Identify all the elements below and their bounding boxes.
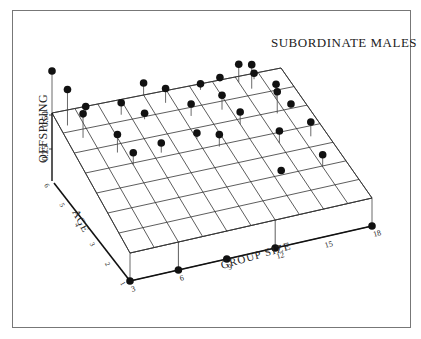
x-tick-label: 15 — [324, 239, 334, 250]
data-point — [250, 69, 258, 77]
x-tick-label: 18 — [372, 228, 382, 239]
y-tick-label: 3 — [88, 241, 97, 248]
data-point — [319, 151, 327, 159]
data-point — [141, 109, 149, 117]
data-point — [162, 85, 170, 93]
y-tick-label: 5 — [57, 202, 66, 209]
data-point — [187, 100, 195, 108]
y-axis-label: AGE — [70, 207, 92, 234]
data-point — [79, 110, 87, 118]
z-axis-label: OFFSPRING — [36, 94, 50, 163]
data-point — [287, 100, 295, 108]
data-point — [277, 167, 285, 175]
data-point — [157, 139, 165, 147]
data-point — [272, 81, 280, 89]
data-point — [216, 131, 224, 139]
data-point — [48, 67, 56, 75]
data-point — [117, 99, 125, 107]
data-point — [248, 61, 256, 69]
data-point — [235, 60, 243, 68]
data-point — [64, 86, 72, 94]
data-point — [236, 108, 244, 116]
data-point — [140, 79, 148, 87]
data-point — [273, 88, 281, 96]
data-point — [82, 103, 90, 111]
3d-scatter-plot: 3691215181234560.250.50 OFFSPRING AGE GR… — [0, 0, 421, 339]
data-point — [197, 80, 205, 88]
data-point — [216, 74, 224, 82]
data-point — [218, 91, 226, 99]
y-tick-label: 1 — [118, 280, 127, 287]
y-tick-label: 6 — [42, 182, 51, 189]
x-tick-label: 3 — [130, 284, 136, 294]
data-point — [193, 129, 201, 137]
data-point — [114, 131, 122, 139]
data-point — [276, 127, 284, 135]
x-tick-label: 6 — [178, 273, 184, 283]
y-tick-label: 2 — [103, 261, 112, 268]
data-point — [129, 149, 137, 157]
data-point — [307, 118, 315, 126]
